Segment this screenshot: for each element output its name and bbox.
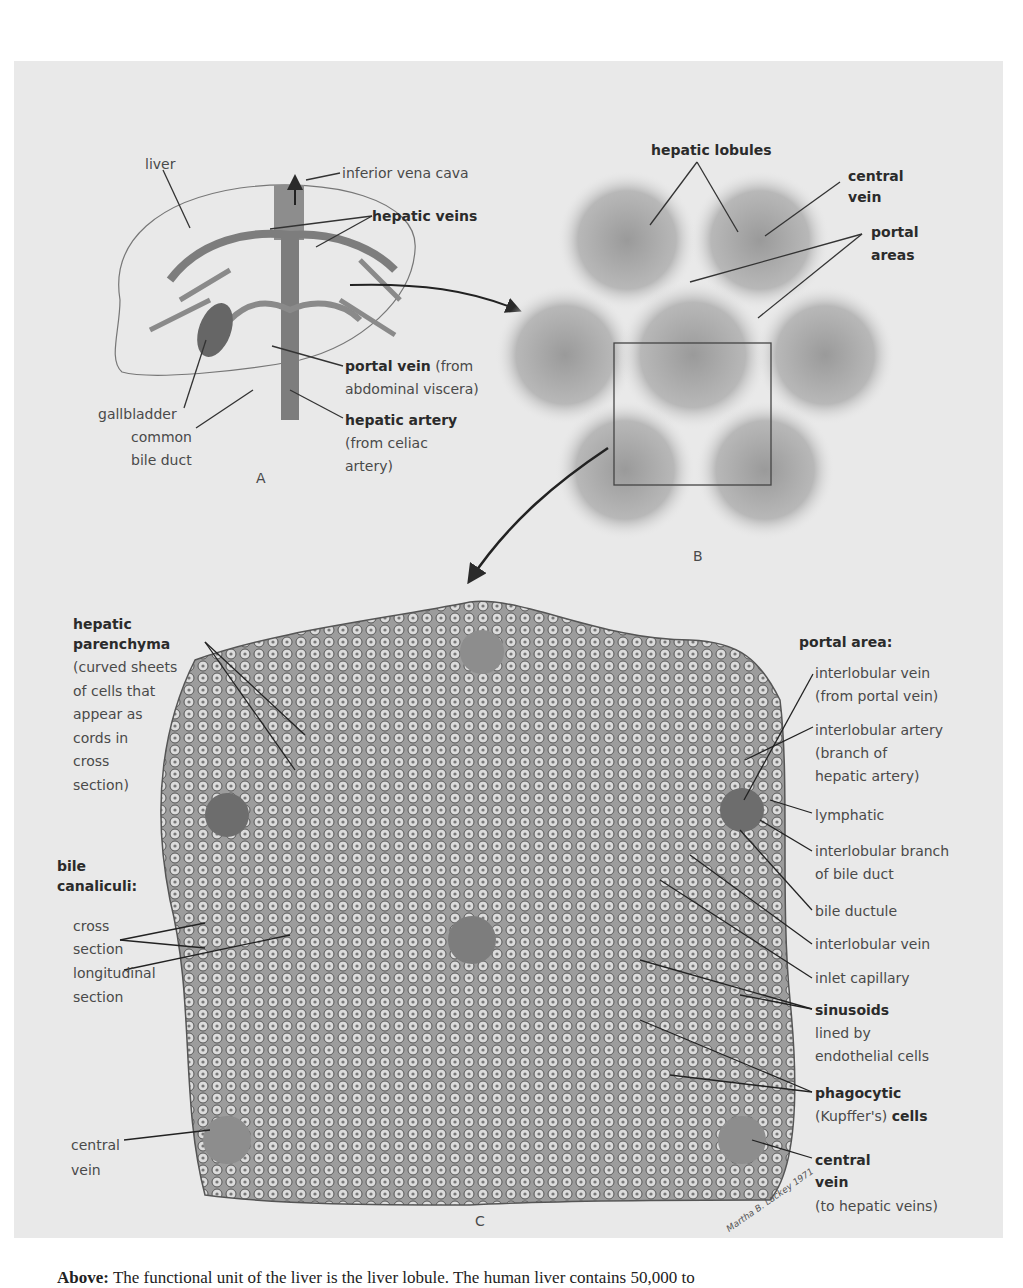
label-interlobular-artery-2: (branch of (815, 743, 887, 763)
lobule-section-diagram (120, 601, 813, 1205)
label-portal-vein-title: portal vein (345, 358, 431, 374)
label-hepatic-veins: hepatic veins (372, 206, 477, 226)
label-interlobular-vein-2: (from portal vein) (815, 686, 938, 706)
label-cross-section-1: cross (73, 916, 109, 936)
label-bile-duct-branch-1: interlobular branch (815, 841, 949, 861)
label-cross-section-2: section (73, 939, 123, 959)
label-hepatic-artery-note2: artery) (345, 456, 393, 476)
label-kupffer: (Kupffer's) (815, 1108, 892, 1124)
parenchyma-desc-line: of cells that (73, 680, 177, 704)
label-portal-vein-note2: abdominal viscera) (345, 379, 479, 399)
label-central-vein-c-right-2: vein (815, 1172, 848, 1192)
label-hepatic-lobules: hepatic lobules (651, 140, 772, 160)
parenchyma-desc-line: cords in (73, 727, 177, 751)
label-portal-vein: portal vein (from (345, 356, 473, 376)
label-kupffer-cells: (Kupffer's) cells (815, 1106, 928, 1126)
label-kupffer-cells-word: cells (892, 1108, 928, 1124)
label-bile-duct-branch-2: of bile duct (815, 864, 894, 884)
label-hepatic-artery-note1: (from celiac (345, 433, 428, 453)
label-phagocytic: phagocytic (815, 1083, 901, 1103)
label-hepatic-parenchyma-2: parenchyma (73, 634, 170, 654)
parenchyma-desc-line: appear as (73, 703, 177, 727)
label-bile-ductule: bile ductule (815, 901, 897, 921)
label-liver: liver (145, 154, 175, 174)
label-central-vein-2: vein (848, 187, 881, 207)
label-hepatic-parenchyma-1: hepatic (73, 614, 132, 634)
label-portal-vein-note: (from (431, 358, 474, 374)
label-central-vein-c-left-1: central (71, 1135, 120, 1155)
caption-text: The functional unit of the liver is the … (109, 1268, 695, 1287)
label-interlobular-vein-1: interlobular vein (815, 663, 930, 683)
label-gallbladder: gallbladder (98, 404, 177, 424)
parenchyma-desc-line: (curved sheets (73, 656, 177, 680)
label-parenchyma-description: (curved sheets of cells that appear as c… (73, 656, 177, 797)
parenchyma-desc-line: section) (73, 774, 177, 798)
figure-caption: Above: The functional unit of the liver … (57, 1268, 695, 1288)
figure-letter-c: C (475, 1213, 485, 1229)
label-inlet-capillary: inlet capillary (815, 968, 910, 988)
caption-lead: Above: (57, 1268, 109, 1287)
label-portal-area: portal area: (799, 632, 892, 652)
parenchyma-desc-line: cross (73, 750, 177, 774)
label-interlobular-artery-3: hepatic artery) (815, 766, 919, 786)
label-portal-areas-2: areas (871, 245, 915, 265)
label-bile-canaliculi-1: bile (57, 856, 86, 876)
label-sinusoids-desc-2: endothelial cells (815, 1046, 929, 1066)
label-central-vein-c-left-2: vein (71, 1160, 101, 1180)
label-interlobular-vein-b: interlobular vein (815, 934, 930, 954)
label-central-vein-1: central (848, 166, 904, 186)
label-longitudinal-section-1: longitudinal (73, 963, 156, 983)
label-inferior-vena-cava: inferior vena cava (342, 163, 469, 183)
figure-letter-a: A (256, 470, 266, 486)
label-interlobular-artery-1: interlobular artery (815, 720, 943, 740)
label-lymphatic: lymphatic (815, 805, 884, 825)
label-hepatic-artery: hepatic artery (345, 410, 457, 430)
label-sinusoids: sinusoids (815, 1000, 889, 1020)
label-bile-canaliculi-2: canaliculi: (57, 876, 137, 896)
label-portal-areas-1: portal (871, 222, 918, 242)
lobules-diagram (470, 162, 895, 580)
label-common-bile-duct-1: common (131, 427, 192, 447)
label-common-bile-duct-2: bile duct (131, 450, 192, 470)
label-longitudinal-section-2: section (73, 987, 123, 1007)
label-central-vein-c-right-1: central (815, 1150, 871, 1170)
label-central-vein-c-right-3: (to hepatic veins) (815, 1196, 938, 1216)
figure-letter-b: B (693, 548, 703, 564)
label-sinusoids-desc-1: lined by (815, 1023, 871, 1043)
